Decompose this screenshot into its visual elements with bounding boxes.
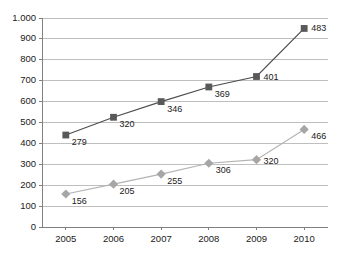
y-axis-tick-label: 500 bbox=[2, 117, 36, 127]
data-point-marker-square bbox=[301, 25, 308, 32]
data-point-marker-square bbox=[205, 84, 212, 91]
data-point-label: 466 bbox=[311, 131, 326, 141]
data-point-label: 401 bbox=[264, 72, 279, 82]
data-point-marker-square bbox=[62, 132, 69, 139]
y-axis-tick-label: 1.000 bbox=[2, 13, 36, 23]
data-point-marker-diamond bbox=[252, 155, 261, 164]
y-axis-tick-label: 0 bbox=[2, 222, 36, 232]
data-point-label: 320 bbox=[120, 119, 135, 129]
data-point-label: 156 bbox=[72, 196, 87, 206]
y-axis-tick-label: 100 bbox=[2, 201, 36, 211]
y-axis-tick-label: 600 bbox=[2, 96, 36, 106]
data-point-label: 306 bbox=[216, 165, 231, 175]
data-point-label: 320 bbox=[264, 156, 279, 166]
x-axis-tick-label: 2006 bbox=[92, 234, 136, 244]
data-point-label: 483 bbox=[311, 23, 326, 33]
y-axis-tick-label: 700 bbox=[2, 75, 36, 85]
data-point-marker-diamond bbox=[61, 189, 70, 198]
x-axis-tick-label: 2007 bbox=[139, 234, 183, 244]
data-point-marker-diamond bbox=[300, 125, 309, 134]
data-point-marker-square bbox=[158, 98, 165, 105]
line-chart: 01002003004005006007008009001.000 200520… bbox=[0, 0, 338, 259]
data-point-label: 205 bbox=[120, 186, 135, 196]
data-point-label: 369 bbox=[215, 89, 230, 99]
y-axis-tick-label: 300 bbox=[2, 159, 36, 169]
data-point-label: 346 bbox=[167, 104, 182, 114]
x-axis-tick-label: 2009 bbox=[235, 234, 279, 244]
data-point-marker-diamond bbox=[157, 170, 166, 179]
data-point-label: 279 bbox=[72, 137, 87, 147]
data-point-marker-square bbox=[110, 114, 117, 121]
data-point-marker-square bbox=[253, 73, 260, 80]
x-axis-tick-label: 2005 bbox=[44, 234, 88, 244]
data-point-marker-diamond bbox=[204, 159, 213, 168]
data-point-label: 255 bbox=[167, 176, 182, 186]
series-line-square bbox=[66, 28, 304, 135]
data-point-marker-diamond bbox=[109, 180, 118, 189]
y-axis-tick-label: 800 bbox=[2, 54, 36, 64]
y-axis-tick-label: 200 bbox=[2, 180, 36, 190]
chart-canvas bbox=[0, 0, 338, 259]
data-series-layer bbox=[61, 25, 309, 199]
y-axis-tick-label: 400 bbox=[2, 138, 36, 148]
y-axis-tick-label: 900 bbox=[2, 33, 36, 43]
x-axis-tick-label: 2010 bbox=[282, 234, 326, 244]
x-axis-tick-label: 2008 bbox=[187, 234, 231, 244]
